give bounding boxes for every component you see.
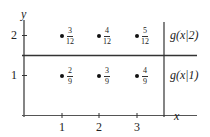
point-dot — [97, 34, 101, 38]
point-dot — [135, 34, 139, 38]
probability-fraction: 3 9 — [104, 67, 110, 86]
x-axis-label: x — [174, 110, 179, 122]
point-dot — [60, 34, 64, 38]
probability-fraction: 3 12 — [66, 27, 74, 46]
row-label-g-x-given-1: g(x|1) — [170, 69, 199, 81]
fraction-numerator: 3 — [104, 67, 110, 77]
fraction-denominator: 12 — [66, 37, 74, 46]
fraction-denominator: 9 — [105, 77, 109, 86]
x-tick-label-2: 2 — [96, 121, 102, 133]
x-tick-label-1: 1 — [59, 121, 65, 133]
y-tick-label-1: 1 — [11, 69, 17, 81]
point-dot — [97, 74, 101, 78]
y-tick-label-2: 2 — [11, 29, 17, 41]
fraction-denominator: 12 — [141, 37, 149, 46]
fraction-numerator: 3 — [67, 27, 73, 37]
fraction-numerator: 2 — [67, 67, 73, 77]
y-axis-label: y — [21, 8, 26, 20]
fraction-denominator: 9 — [143, 77, 147, 86]
fraction-denominator: 12 — [103, 37, 111, 46]
probability-fraction: 4 9 — [142, 67, 148, 86]
fraction-numerator: 4 — [104, 27, 110, 37]
x-tick-label-3: 3 — [134, 121, 140, 133]
fraction-numerator: 5 — [142, 27, 148, 37]
probability-fraction: 4 12 — [103, 27, 111, 46]
fraction-denominator: 9 — [68, 77, 72, 86]
point-dot — [135, 74, 139, 78]
row-label-g-x-given-2: g(x|2) — [170, 29, 199, 41]
probability-fraction: 2 9 — [67, 67, 73, 86]
probability-fraction: 5 12 — [141, 27, 149, 46]
point-dot — [60, 74, 64, 78]
fraction-numerator: 4 — [142, 67, 148, 77]
